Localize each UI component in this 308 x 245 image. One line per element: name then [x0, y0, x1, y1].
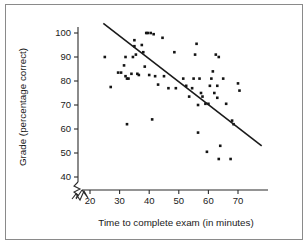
scatter-point	[237, 82, 240, 85]
scatter-point	[135, 53, 138, 56]
scatter-point	[151, 118, 154, 121]
y-axis-title-text: Grade (percentage correct)	[17, 48, 28, 166]
y-tick-label: 100	[55, 27, 71, 38]
scatter-point	[215, 53, 218, 56]
scatter-point	[216, 85, 219, 88]
scatter-point	[195, 43, 198, 46]
x-axis-title: Time to complete exam (in minutes)	[98, 217, 253, 228]
scatter-point	[217, 158, 220, 161]
plot-canvas: 405060708090100 203040506070 Grade (perc…	[0, 0, 308, 245]
scatter-point	[194, 53, 197, 56]
y-tick-label: 60	[60, 123, 71, 134]
scatter-point	[197, 104, 200, 107]
scatter-point	[206, 151, 209, 154]
scatter-point	[182, 77, 185, 80]
scatter-point	[117, 71, 120, 74]
scatter-point	[229, 158, 232, 161]
scatter-point	[124, 56, 127, 59]
x-tick-label: 50	[174, 195, 185, 206]
scatter-point	[192, 77, 195, 80]
scatter-plot-figure: 405060708090100 203040506070 Grade (perc…	[0, 0, 308, 245]
scatter-point	[216, 97, 219, 100]
scatter-point	[238, 89, 241, 92]
scatter-point	[138, 74, 141, 77]
scatter-point	[210, 77, 213, 80]
scatter-point	[188, 95, 191, 98]
scatter-point	[120, 71, 123, 74]
scatter-point	[133, 39, 136, 42]
x-tick-label: 30	[114, 195, 125, 206]
scatter-point	[104, 56, 107, 59]
x-tick-label: 60	[203, 195, 214, 206]
scatter-point	[200, 92, 203, 95]
scatter-point	[191, 87, 194, 90]
scatter-point	[143, 65, 146, 68]
x-tick-label: 20	[85, 195, 96, 206]
scatter-point	[157, 83, 160, 86]
scatter-point	[173, 51, 176, 54]
scatter-point	[141, 44, 144, 47]
data-points	[104, 32, 241, 161]
scatter-point	[148, 74, 151, 77]
y-tick-label: 90	[60, 51, 71, 62]
y-tick-label: 80	[60, 75, 71, 86]
scatter-point	[209, 85, 212, 88]
scatter-point	[167, 87, 170, 90]
x-tick-label: 70	[233, 195, 244, 206]
y-tick-label: 50	[60, 147, 71, 158]
y-axis-title: Grade (percentage correct)	[17, 48, 28, 166]
scatter-point	[222, 77, 225, 80]
scatter-point	[213, 92, 216, 95]
scatter-point	[124, 75, 127, 78]
scatter-point	[152, 33, 155, 36]
x-tick-label: 40	[144, 195, 155, 206]
scatter-point	[197, 131, 200, 134]
scatter-point	[123, 64, 126, 67]
scatter-point	[217, 56, 220, 59]
y-tick-label: 70	[60, 99, 71, 110]
x-axis: 203040506070	[82, 190, 268, 206]
scatter-point	[130, 73, 133, 76]
scatter-point	[175, 87, 178, 90]
scatter-point	[219, 145, 222, 148]
scatter-point	[109, 86, 112, 89]
scatter-point	[225, 103, 228, 106]
scatter-point	[212, 70, 215, 73]
scatter-point	[201, 95, 204, 98]
scatter-point	[161, 37, 164, 40]
y-tick-label: 40	[60, 171, 71, 182]
scatter-point	[163, 75, 166, 78]
x-axis-title-text: Time to complete exam (in minutes)	[98, 217, 253, 228]
scatter-point	[198, 77, 201, 80]
scatter-point	[146, 32, 149, 35]
scatter-point	[126, 123, 129, 126]
scatter-point	[132, 56, 135, 59]
y-axis: 405060708090100	[55, 27, 78, 182]
scatter-point	[149, 32, 152, 35]
scatter-point	[154, 75, 157, 78]
scatter-point	[127, 77, 130, 80]
